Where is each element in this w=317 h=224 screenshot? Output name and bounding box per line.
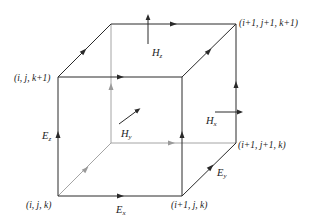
node-label-i-j-k1: (i, j, k+1) (14, 73, 50, 84)
Hy-arrow-icon (119, 110, 138, 124)
arrow-Ex-bottom-icon (117, 194, 124, 199)
arrow-back-top-icon (170, 22, 177, 27)
node-label-i1-j1-k1: (i+1, j+1, k+1) (239, 18, 298, 29)
field-label-Hy: Hy (120, 128, 133, 141)
field-label-Ex: Ex (115, 204, 126, 217)
node-label-i1-j-k: (i+1, j, k) (171, 200, 207, 211)
yee-cell-diagram: (i, j, k) (i+1, j, k) (i+1, j+1, k) (i, … (0, 0, 317, 224)
node-label-i-j-k: (i, j, k) (26, 200, 51, 211)
field-label-Hz: Hz (151, 47, 163, 60)
arrow-front-right-icon (180, 131, 185, 138)
field-label-Hx: Hx (205, 115, 218, 128)
arrow-Ez-left-icon (56, 131, 61, 138)
node-label-i1-j1-k: (i+1, j+1, k) (238, 140, 286, 151)
arrow-back-bottom-icon (168, 141, 175, 146)
h-field-arrows (119, 17, 240, 124)
field-label-Ez: Ez (41, 130, 51, 143)
arrow-bottom-left-diag-icon (82, 165, 90, 173)
field-labels: Ex Ey Ez Hx Hy Hz (41, 47, 227, 217)
arrow-back-right-icon (234, 81, 239, 88)
field-label-Ey: Ey (216, 167, 227, 180)
arrow-back-left-icon (109, 83, 114, 90)
arrow-front-top-icon (117, 75, 124, 80)
